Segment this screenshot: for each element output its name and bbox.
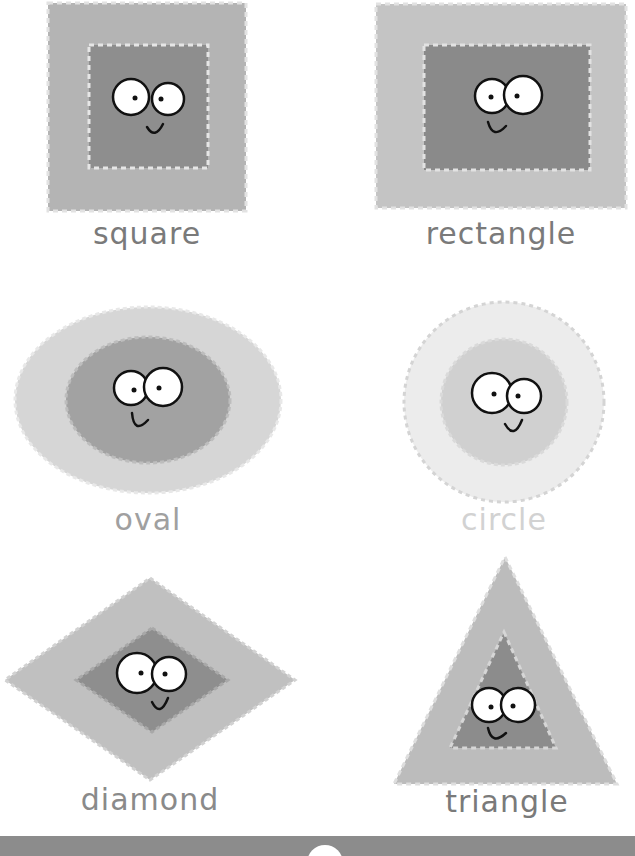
shape-label-rectangle: rectangle [376,216,626,251]
shape-label-oval: oval [48,502,248,537]
shape-card-square: square [0,0,300,270]
shape-label-circle: circle [404,502,604,537]
shape-label-triangle: triangle [394,784,620,819]
shape-card-circle: circle [390,290,635,550]
shape-card-rectangle: rectangle [320,0,635,270]
shape-label-diamond: diamond [50,782,250,817]
shape-card-diamond: diamond [0,570,310,830]
shape-card-triangle: triangle [380,550,635,830]
shape-label-square: square [48,216,246,251]
shape-card-oval: oval [0,290,300,550]
